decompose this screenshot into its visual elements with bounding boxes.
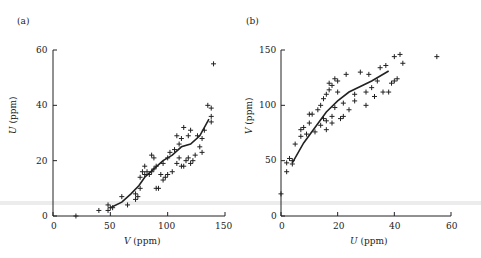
- data-point-plus-marker: [158, 172, 163, 177]
- data-point-plus-marker: [177, 142, 182, 147]
- data-point-plus-marker: [106, 202, 111, 207]
- data-point-plus-marker: [188, 161, 193, 166]
- data-point-plus-marker: [156, 186, 161, 191]
- data-point-plus-marker: [193, 153, 198, 158]
- data-point-plus-marker: [181, 125, 186, 130]
- data-point-plus-marker: [142, 164, 147, 169]
- data-point-plus-marker: [209, 119, 214, 124]
- data-point-plus-marker: [366, 72, 371, 77]
- data-point-plus-marker: [352, 92, 357, 97]
- data-point-plus-marker: [383, 63, 388, 68]
- data-point-plus-marker: [341, 101, 346, 106]
- data-point-plus-marker: [284, 169, 289, 174]
- data-point-plus-marker: [315, 107, 320, 112]
- data-point-plus-marker: [119, 194, 124, 199]
- data-point-plus-marker: [378, 65, 383, 70]
- data-point-plus-marker: [179, 136, 184, 141]
- figure: (a) 60 40 20 0 0 50 100 150 V (ppm) U (p…: [0, 0, 481, 258]
- data-point-plus-marker: [324, 127, 329, 132]
- data-point-plus-marker: [352, 98, 357, 103]
- data-point-plus-marker: [167, 150, 172, 155]
- data-point-plus-marker: [125, 202, 130, 207]
- data-point-plus-marker: [73, 214, 78, 219]
- data-point-plus-marker: [324, 92, 329, 97]
- data-point-plus-marker: [364, 90, 369, 95]
- data-point-plus-marker: [149, 153, 154, 158]
- data-point-plus-marker: [174, 161, 179, 166]
- data-point-plus-marker: [151, 155, 156, 160]
- data-point-plus-marker: [344, 72, 349, 77]
- data-point-plus-marker: [347, 107, 352, 112]
- data-point-plus-marker: [318, 123, 323, 128]
- data-point-plus-marker: [372, 94, 377, 99]
- data-point-plus-marker: [209, 106, 214, 111]
- data-point-plus-marker: [330, 114, 335, 119]
- data-point-plus-marker: [293, 142, 298, 147]
- data-point-plus-marker: [184, 158, 189, 163]
- data-point-plus-marker: [174, 133, 179, 138]
- data-point-plus-marker: [358, 70, 363, 75]
- data-point-plus-marker: [135, 194, 140, 199]
- data-point-plus-marker: [209, 114, 214, 119]
- data-point-plus-marker: [138, 175, 143, 180]
- data-point-plus-marker: [200, 136, 205, 141]
- data-point-plus-marker: [165, 172, 170, 177]
- data-point-plus-marker: [321, 96, 326, 101]
- data-point-plus-marker: [200, 150, 205, 155]
- data-point-plus-marker: [310, 112, 315, 117]
- trend-line: [110, 119, 209, 208]
- data-point-plus-marker: [170, 169, 175, 174]
- plot-canvas: [0, 0, 481, 258]
- data-point-plus-marker: [188, 128, 193, 133]
- data-point-plus-marker: [181, 164, 186, 169]
- data-point-plus-marker: [381, 90, 386, 95]
- panel-a-plot: [53, 50, 225, 219]
- data-point-plus-marker: [298, 134, 303, 139]
- data-point-plus-marker: [197, 144, 202, 149]
- data-point-plus-marker: [133, 191, 138, 196]
- data-point-plus-marker: [327, 87, 332, 92]
- data-point-plus-marker: [190, 158, 195, 163]
- data-point-plus-marker: [279, 191, 284, 196]
- data-point-plus-marker: [96, 208, 101, 213]
- data-point-plus-marker: [335, 90, 340, 95]
- data-point-plus-marker: [369, 85, 374, 90]
- data-point-plus-marker: [106, 208, 111, 213]
- data-point-plus-marker: [186, 133, 191, 138]
- panel-b-plot: [279, 50, 452, 216]
- data-point-plus-marker: [205, 103, 210, 108]
- data-point-plus-marker: [398, 52, 403, 57]
- data-point-plus-marker: [163, 175, 168, 180]
- data-point-plus-marker: [161, 178, 166, 183]
- data-point-plus-marker: [177, 155, 182, 160]
- data-point-plus-marker: [400, 61, 405, 66]
- data-point-plus-marker: [140, 169, 145, 174]
- data-point-plus-marker: [307, 121, 312, 126]
- data-point-plus-marker: [186, 155, 191, 160]
- data-point-plus-marker: [133, 197, 138, 202]
- data-point-plus-marker: [318, 103, 323, 108]
- data-point-plus-marker: [386, 90, 391, 95]
- data-point-plus-marker: [392, 54, 397, 59]
- data-point-plus-marker: [211, 61, 216, 66]
- data-point-plus-marker: [364, 103, 369, 108]
- data-point-plus-marker: [330, 121, 335, 126]
- data-point-plus-marker: [434, 54, 439, 59]
